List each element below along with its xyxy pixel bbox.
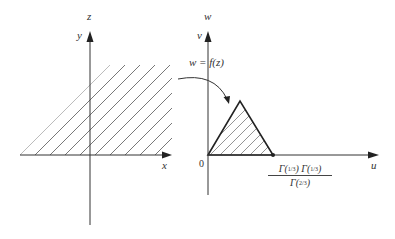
- z-plane-axes: [20, 40, 166, 225]
- vertex-label-numerator: Γ(1/3) Γ(1/3): [268, 163, 332, 176]
- v-axis-arrowhead-icon: [205, 31, 212, 42]
- u-axis-label: u: [371, 160, 377, 171]
- z-plane-label: z: [87, 11, 91, 22]
- w-plane-label: w: [204, 11, 211, 22]
- v-axis-label: v: [197, 30, 202, 41]
- mapping-arrowhead-icon: [224, 96, 231, 104]
- vertex-label-denominator: Γ(2/3): [268, 176, 332, 188]
- y-axis-label: y: [77, 30, 82, 41]
- origin-label: 0: [199, 159, 204, 169]
- triangle-vertex-label: Γ(1/3) Γ(1/3) Γ(2/3): [268, 163, 332, 188]
- x-axis-arrowhead-icon: [162, 152, 172, 159]
- x-axis-label: x: [162, 160, 167, 171]
- y-axis-arrowhead-icon: [87, 31, 94, 42]
- mapping-arrow: [178, 78, 227, 99]
- u-axis-arrowhead-icon: [368, 152, 379, 159]
- triangle-vertex-dot: [271, 153, 275, 157]
- w-plane-hatched-triangle: [200, 95, 330, 155]
- mapping-label: w = f(z): [189, 57, 224, 68]
